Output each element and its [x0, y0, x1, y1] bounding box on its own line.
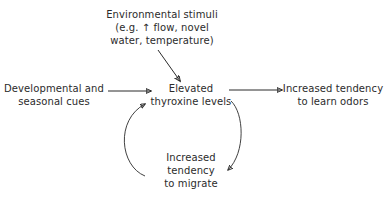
node-elevated-thyroxine-levels: Elevated thyroxine levels [148, 82, 234, 108]
diagram-canvas: Environmental stimuli (e.g. ↑ flow, nove… [0, 0, 385, 201]
edge-stimuli-to-thyroxine [158, 50, 180, 81]
node-developmental-seasonal-cues: Developmental and seasonal cues [2, 82, 106, 108]
node-increased-tendency-to-migrate: Increased tendency to migrate [151, 151, 231, 190]
node-increased-tendency-to-learn-odors: Increased tendency to learn odors [281, 82, 385, 108]
node-environmental-stimuli: Environmental stimuli (e.g. ↑ flow, nove… [86, 8, 238, 47]
edge-migration-to-thyroxine [124, 104, 145, 176]
